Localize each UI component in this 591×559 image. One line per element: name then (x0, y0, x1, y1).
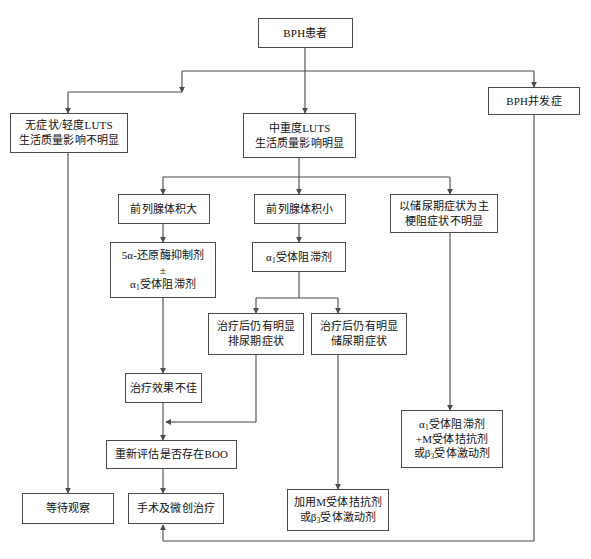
node-add-m-antagonist[interactable]: 加用M受体拮抗剂 或β3受体激动剂 (287, 489, 389, 531)
node-watchful-waiting[interactable]: 等待观察 (22, 493, 114, 524)
node-add-m-antagonist-line-0: 加用M受体拮抗剂 (294, 495, 382, 510)
node-five-ar-inhibitor-line-1: ± (160, 263, 166, 278)
node-mild-luts-line-0: 无症状/轻度LUTS (25, 118, 113, 133)
bph-treatment-flowchart: BPH患者 BPH并发症 无症状/轻度LUTS 生活质量影响不明显 中重度LUT… (0, 0, 591, 559)
node-alpha1-plus-m-line-2: 或β3受体激动剂 (414, 446, 491, 461)
node-alpha1-plus-m-line-0: α1受体阻滞剂 (419, 417, 485, 432)
node-alpha1-blocker[interactable]: α1受体阻滞剂 (252, 242, 346, 272)
node-alpha1-blocker-line-0: α1受体阻滞剂 (266, 250, 332, 265)
node-persist-storage[interactable]: 治疗后仍有明显 储尿期症状 (311, 313, 407, 355)
node-moderate-severe-luts-line-1: 生活质量影响明显 (255, 136, 345, 151)
node-prostate-large-line-0: 前列腺体积大 (130, 202, 197, 217)
node-moderate-severe-luts-line-0: 中重度LUTS (269, 121, 331, 136)
node-five-ar-inhibitor-line-2: α1受体阻滞剂 (130, 277, 196, 292)
node-poor-response-line-0: 治疗效果不佳 (130, 381, 197, 396)
node-persist-storage-line-1: 储尿期症状 (331, 334, 387, 349)
node-surgery-minimally-invasive[interactable]: 手术及微创治疗 (128, 493, 224, 524)
node-persist-voiding-line-0: 治疗后仍有明显 (217, 319, 295, 334)
node-prostate-small-line-0: 前列腺体积小 (266, 202, 333, 217)
node-bph-complication[interactable]: BPH并发症 (488, 87, 580, 115)
node-alpha1-plus-m[interactable]: α1受体阻滞剂 +M受体拮抗剂 或β3受体激动剂 (401, 410, 503, 468)
node-persist-voiding[interactable]: 治疗后仍有明显 排尿期症状 (208, 313, 304, 355)
node-watchful-waiting-line-0: 等待观察 (46, 501, 91, 516)
node-bph-patient-line-0: BPH患者 (283, 26, 327, 41)
node-mild-luts[interactable]: 无症状/轻度LUTS 生活质量影响不明显 (10, 113, 128, 153)
node-storage-dominant-line-0: 以储尿期症状为主 (399, 199, 489, 214)
node-moderate-severe-luts[interactable]: 中重度LUTS 生活质量影响明显 (243, 113, 356, 158)
node-prostate-small[interactable]: 前列腺体积小 (254, 194, 346, 224)
node-reassess-boo[interactable]: 重新评估是否存在BOO (106, 440, 237, 469)
node-storage-dominant[interactable]: 以储尿期症状为主 梗阻症状不明显 (390, 194, 498, 233)
node-surgery-minimally-invasive-line-0: 手术及微创治疗 (137, 501, 215, 516)
node-bph-complication-line-0: BPH并发症 (506, 94, 562, 109)
node-alpha1-plus-m-line-1: +M受体拮抗剂 (416, 432, 488, 447)
node-poor-response[interactable]: 治疗效果不佳 (125, 373, 202, 403)
node-persist-storage-line-0: 治疗后仍有明显 (320, 319, 398, 334)
node-bph-patient[interactable]: BPH患者 (258, 18, 353, 48)
node-five-ar-inhibitor-line-0: 5α-还原酶抑制剂 (122, 248, 205, 263)
node-mild-luts-line-1: 生活质量影响不明显 (19, 133, 120, 148)
node-persist-voiding-line-1: 排尿期症状 (228, 334, 284, 349)
node-prostate-large[interactable]: 前列腺体积大 (118, 194, 210, 224)
node-reassess-boo-line-0: 重新评估是否存在BOO (115, 447, 228, 462)
node-add-m-antagonist-line-1: 或β3受体激动剂 (300, 510, 377, 525)
node-storage-dominant-line-1: 梗阻症状不明显 (405, 214, 483, 229)
connector-layer (0, 0, 591, 559)
node-five-ar-inhibitor[interactable]: 5α-还原酶抑制剂 ± α1受体阻滞剂 (110, 242, 216, 298)
